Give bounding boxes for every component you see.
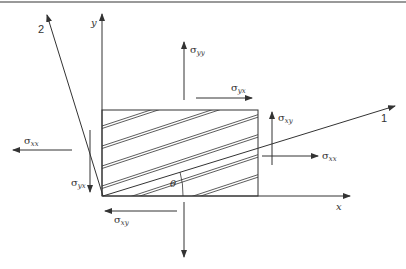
angle-arc <box>180 172 183 196</box>
sigma-yx-left-label: σyx <box>71 177 86 190</box>
sigma-xx-left-label: σxx <box>24 135 39 148</box>
sigma-yy-label: σyy <box>190 44 206 57</box>
fiber-hatching <box>102 74 260 229</box>
y-axis-label: y <box>90 17 97 28</box>
angle-label: θ <box>170 178 176 189</box>
sigma-xy-right-label: σxy <box>278 112 294 125</box>
stress-element-diagram: y x 2 1 θ σyy σyx σxy σxx σxx σyx σxy <box>0 0 406 269</box>
sigma-xy-bottom-label: σxy <box>114 214 130 227</box>
sigma-yx-top-label: σyx <box>231 82 246 95</box>
x-axis-label: x <box>336 201 342 212</box>
axis-2-label: 2 <box>38 23 44 35</box>
axis-2 <box>47 15 103 196</box>
axis-1-label: 1 <box>381 112 387 124</box>
sigma-xx-right-label: σxx <box>322 150 337 163</box>
